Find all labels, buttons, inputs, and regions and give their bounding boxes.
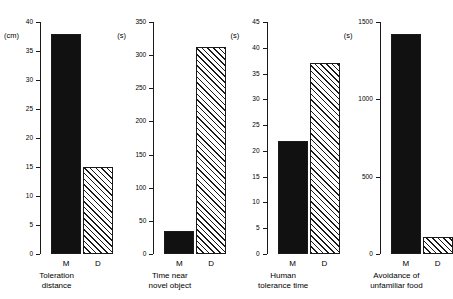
y-axis-tick xyxy=(263,228,267,229)
bar-m xyxy=(278,141,308,254)
y-axis-unit-label: (cm) xyxy=(4,32,19,40)
y-axis-tick-label: 40 xyxy=(0,19,33,26)
x-axis-category-label: M xyxy=(63,260,70,268)
panel-caption: Human tolerance time xyxy=(227,271,340,291)
x-axis-category-label: M xyxy=(402,260,409,268)
y-axis-tick xyxy=(36,254,40,255)
y-axis-tick xyxy=(263,254,267,255)
y-axis-tick xyxy=(36,51,40,52)
y-axis-tick-label: 5 xyxy=(227,225,260,232)
y-axis-tick-label: 150 xyxy=(113,151,146,158)
y-axis-tick-label: 45 xyxy=(227,19,260,26)
y-axis-tick xyxy=(36,109,40,110)
y-axis-tick xyxy=(36,167,40,168)
x-axis-category-label: D xyxy=(95,260,101,268)
plot-area: 050010001500(s)MDAvoidance of unfamiliar… xyxy=(340,0,453,299)
y-axis-tick-label: 25 xyxy=(227,122,260,129)
y-axis-tick xyxy=(36,80,40,81)
y-axis-tick xyxy=(263,151,267,152)
y-axis-tick-label: 30 xyxy=(227,96,260,103)
y-axis-tick-label: 0 xyxy=(0,251,33,258)
bar-d xyxy=(196,47,226,254)
y-axis-tick-label: 40 xyxy=(227,45,260,52)
y-axis-tick-label: 5 xyxy=(0,222,33,229)
x-axis-category-label: M xyxy=(289,260,296,268)
y-axis-tick-label: 30 xyxy=(0,77,33,84)
y-axis-unit-label: (s) xyxy=(344,32,353,40)
y-axis-tick xyxy=(263,22,267,23)
chart-panel-1: 0510152025303540(cm)MDToleration distanc… xyxy=(0,0,113,299)
plot-area: 051015202530354045(s)MDHuman tolerance t… xyxy=(227,0,340,299)
y-axis-tick-label: 35 xyxy=(227,70,260,77)
bars-group xyxy=(41,22,109,254)
y-axis-tick-label: 0 xyxy=(227,251,260,258)
bar-m xyxy=(164,231,194,254)
y-axis-tick xyxy=(36,22,40,23)
y-axis-tick xyxy=(376,22,380,23)
x-axis-category-label: D xyxy=(322,260,328,268)
bar-d xyxy=(310,63,340,254)
y-axis-tick-label: 1000 xyxy=(340,96,373,103)
y-axis-tick-label: 100 xyxy=(113,184,146,191)
y-axis-tick xyxy=(263,125,267,126)
y-axis-tick-label: 0 xyxy=(340,251,373,258)
y-axis-tick-label: 20 xyxy=(0,135,33,142)
y-axis-tick xyxy=(376,254,380,255)
y-axis-tick xyxy=(149,254,153,255)
y-axis-tick-label: 200 xyxy=(113,118,146,125)
x-axis-category-label: D xyxy=(435,260,441,268)
bar-m xyxy=(391,34,421,254)
y-axis-tick xyxy=(376,177,380,178)
bar-d xyxy=(83,167,113,254)
y-axis-tick xyxy=(36,196,40,197)
y-axis-tick-label: 0 xyxy=(113,251,146,258)
y-axis-tick xyxy=(263,177,267,178)
y-axis-tick-label: 10 xyxy=(227,199,260,206)
y-axis-tick xyxy=(149,221,153,222)
bars-group xyxy=(381,22,449,254)
bar-m xyxy=(51,34,81,254)
y-axis-tick xyxy=(149,188,153,189)
y-axis-tick-label: 250 xyxy=(113,85,146,92)
plot-area: 050100150200250300350(s)MDTime near nove… xyxy=(113,0,226,299)
y-axis-tick-label: 350 xyxy=(113,19,146,26)
y-axis-tick-label: 10 xyxy=(0,193,33,200)
y-axis-tick xyxy=(149,121,153,122)
y-axis-tick xyxy=(149,88,153,89)
y-axis-tick xyxy=(376,99,380,100)
y-axis-tick xyxy=(36,138,40,139)
y-axis-tick xyxy=(263,48,267,49)
y-axis-tick xyxy=(263,74,267,75)
y-axis-tick-label: 300 xyxy=(113,52,146,59)
y-axis-tick-label: 1500 xyxy=(340,19,373,26)
y-axis-tick xyxy=(149,55,153,56)
y-axis-tick xyxy=(263,202,267,203)
bar-d xyxy=(423,237,453,254)
panel-caption: Time near novel object xyxy=(113,271,226,291)
y-axis-unit-label: (s) xyxy=(117,32,126,40)
x-axis-category-label: D xyxy=(208,260,214,268)
chart-panel-2: 050100150200250300350(s)MDTime near nove… xyxy=(113,0,226,299)
y-axis-tick xyxy=(263,99,267,100)
y-axis-tick xyxy=(149,155,153,156)
y-axis-tick-label: 50 xyxy=(113,218,146,225)
y-axis-tick xyxy=(36,225,40,226)
chart-panel-4: 050010001500(s)MDAvoidance of unfamiliar… xyxy=(340,0,453,299)
bars-group xyxy=(154,22,222,254)
bar-chart-figure: 0510152025303540(cm)MDToleration distanc… xyxy=(0,0,453,299)
bars-group xyxy=(268,22,336,254)
y-axis-tick-label: 15 xyxy=(0,164,33,171)
y-axis-unit-label: (s) xyxy=(231,32,240,40)
plot-area: 0510152025303540(cm)MDToleration distanc… xyxy=(0,0,113,299)
panel-caption: Avoidance of unfamiliar food xyxy=(340,271,453,291)
y-axis-tick xyxy=(149,22,153,23)
y-axis-tick-label: 20 xyxy=(227,148,260,155)
y-axis-tick-label: 500 xyxy=(340,173,373,180)
y-axis-tick-label: 35 xyxy=(0,48,33,55)
chart-panel-3: 051015202530354045(s)MDHuman tolerance t… xyxy=(227,0,340,299)
panel-caption: Toleration distance xyxy=(0,271,113,291)
y-axis-tick-label: 15 xyxy=(227,173,260,180)
x-axis-category-label: M xyxy=(176,260,183,268)
y-axis-tick-label: 25 xyxy=(0,106,33,113)
